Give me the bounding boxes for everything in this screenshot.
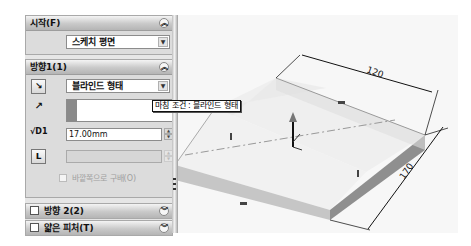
- selection-color-swatch: [67, 100, 77, 121]
- vertical-relation-icon: [230, 133, 232, 140]
- extrude-preview: 120 170: [178, 15, 458, 233]
- tooltip-text: 마침 조건 : 블라인드 형태: [155, 101, 238, 110]
- direction-arrow-icon: ↗: [33, 100, 45, 111]
- collapse-icon[interactable]: ︽: [159, 62, 169, 72]
- horizontal-relation-icon: [338, 101, 345, 104]
- direction2-group-header[interactable]: 방향 2(2) ︾: [25, 203, 173, 219]
- property-manager-panel: 시작(F) ︽ 스케치 평면 ▼ 방향1(1) ︽ ↘ 블라인드 형태 ▼ ↗ …: [25, 15, 173, 233]
- depth-value: 17.00mm: [69, 130, 108, 139]
- thin-feature-group-title: 얇은 피처(T): [44, 223, 94, 233]
- start-group: 시작(F) ︽ 스케치 평면 ▼: [25, 15, 173, 55]
- depth-icon: √D1: [30, 127, 46, 136]
- start-group-header[interactable]: 시작(F) ︽: [26, 16, 172, 31]
- end-condition-value: 블라인드 형태: [72, 81, 123, 91]
- direction1-group-title: 방향1(1): [30, 62, 67, 72]
- draft-outward-checkbox[interactable]: 바깥쪽으로 구배(O): [59, 172, 136, 183]
- checkbox-icon[interactable]: [30, 223, 39, 232]
- collapse-icon[interactable]: ︽: [159, 18, 169, 28]
- direction1-group-header[interactable]: 방향1(1) ︽: [26, 60, 172, 75]
- start-group-title: 시작(F): [30, 18, 60, 28]
- end-condition-select[interactable]: 블라인드 형태 ▼: [66, 79, 170, 93]
- graphics-area[interactable]: 120 170: [178, 15, 458, 233]
- splitter-grip-icon: [173, 178, 176, 192]
- direction2-group: 방향 2(2) ︾: [25, 203, 173, 217]
- depth-input[interactable]: 17.00mm: [66, 128, 162, 141]
- checkbox-icon[interactable]: [59, 174, 67, 182]
- start-condition-select[interactable]: 스케치 평면 ▼: [66, 35, 170, 49]
- expand-icon[interactable]: ︾: [159, 223, 169, 233]
- horizontal-relation-icon: [240, 202, 247, 205]
- vertical-relation-icon: [357, 170, 359, 177]
- end-condition-tooltip: 마침 조건 : 블라인드 형태: [152, 100, 241, 112]
- expand-icon[interactable]: ︾: [159, 206, 169, 216]
- reverse-direction-icon[interactable]: ↘: [31, 79, 46, 94]
- checkbox-icon[interactable]: [30, 206, 39, 215]
- chevron-down-icon[interactable]: ▼: [158, 81, 168, 91]
- dimension-120: 120: [365, 64, 385, 79]
- thin-feature-group: 얇은 피처(T) ︾: [25, 220, 173, 234]
- draft-toggle-icon[interactable]: ᒪ: [31, 149, 46, 164]
- draft-outward-label: 바깥쪽으로 구배(O): [72, 174, 136, 183]
- draft-angle-input[interactable]: [66, 150, 162, 163]
- thin-feature-group-header[interactable]: 얇은 피처(T) ︾: [25, 220, 173, 236]
- start-condition-value: 스케치 평면: [72, 37, 115, 47]
- chevron-down-icon[interactable]: ▼: [158, 37, 168, 47]
- direction2-group-title: 방향 2(2): [44, 206, 84, 216]
- direction1-group: 방향1(1) ︽ ↘ 블라인드 형태 ▼ ↗ √D1 17.00mm ▲ ▼ ᒪ…: [25, 59, 173, 198]
